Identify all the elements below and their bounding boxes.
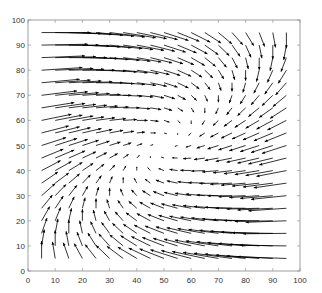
- x-tick-label: 40: [132, 276, 141, 285]
- y-tick-label: 70: [16, 91, 25, 100]
- quiver-plot: 0102030405060708090100010203040506070809…: [0, 0, 322, 293]
- y-tick-label: 100: [12, 16, 26, 25]
- y-tick-label: 30: [16, 192, 25, 201]
- y-tick-label: 50: [16, 142, 25, 151]
- x-tick-label: 10: [51, 276, 60, 285]
- y-tick-label: 90: [16, 41, 25, 50]
- x-tick-label: 30: [105, 276, 114, 285]
- y-tick-label: 40: [16, 167, 25, 176]
- x-tick-label: 0: [26, 276, 31, 285]
- y-tick-label: 0: [21, 267, 26, 276]
- x-tick-label: 70: [214, 276, 223, 285]
- y-tick-label: 10: [16, 242, 25, 251]
- x-tick-label: 90: [268, 276, 277, 285]
- x-tick-label: 80: [241, 276, 250, 285]
- x-tick-label: 60: [187, 276, 196, 285]
- x-tick-label: 20: [78, 276, 87, 285]
- x-tick-label: 50: [160, 276, 169, 285]
- x-tick-label: 100: [293, 276, 307, 285]
- y-tick-label: 80: [16, 66, 25, 75]
- y-tick-label: 20: [16, 217, 25, 226]
- y-tick-label: 60: [16, 116, 25, 125]
